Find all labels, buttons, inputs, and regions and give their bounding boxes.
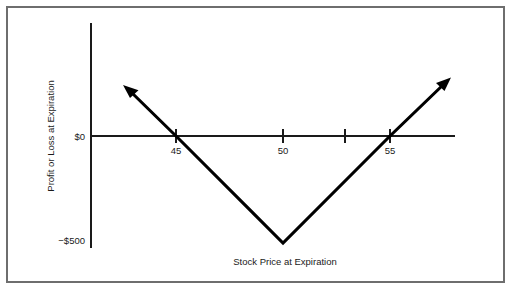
x-tick-label-50: 50	[278, 145, 289, 156]
x-axis-title: Stock Price at Expiration	[233, 256, 337, 267]
y-tick-label-minus-500: −$500	[58, 235, 85, 246]
y-tick-label-zero: $0	[74, 131, 85, 142]
payoff-line-long-straddle	[131, 84, 444, 243]
payoff-diagram-figure: $0 −$500 45 50 55 Stock Price at Expirat…	[0, 0, 517, 295]
x-tick-label-55: 55	[385, 145, 396, 156]
y-axis-title: Profit or Loss at Expiration	[45, 80, 56, 191]
x-tick-label-45: 45	[171, 145, 182, 156]
chart-canvas: $0 −$500 45 50 55 Stock Price at Expirat…	[0, 0, 517, 295]
